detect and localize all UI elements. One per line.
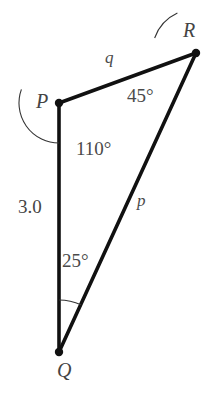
vertex-dot-p [55, 99, 63, 107]
vertex-label-q: Q [57, 360, 71, 380]
vertex-dot-r [192, 49, 200, 57]
vertex-label-p: P [36, 91, 48, 111]
vertex-dot-q [55, 348, 63, 356]
geometry-figure: g. 4 P R Q q p 3.0 110° 45° 25° [0, 0, 217, 403]
angle-label-r: 45° [127, 86, 154, 105]
angle-label-p: 110° [76, 139, 111, 158]
angle-label-q: 25° [62, 251, 89, 270]
angle-arc-r [155, 13, 178, 38]
vertex-label-r: R [183, 20, 195, 40]
angle-arc-q [59, 300, 81, 305]
side-label-p: p [137, 192, 146, 209]
side-label-q: q [105, 49, 114, 66]
side-length-pq: 3.0 [18, 197, 42, 216]
